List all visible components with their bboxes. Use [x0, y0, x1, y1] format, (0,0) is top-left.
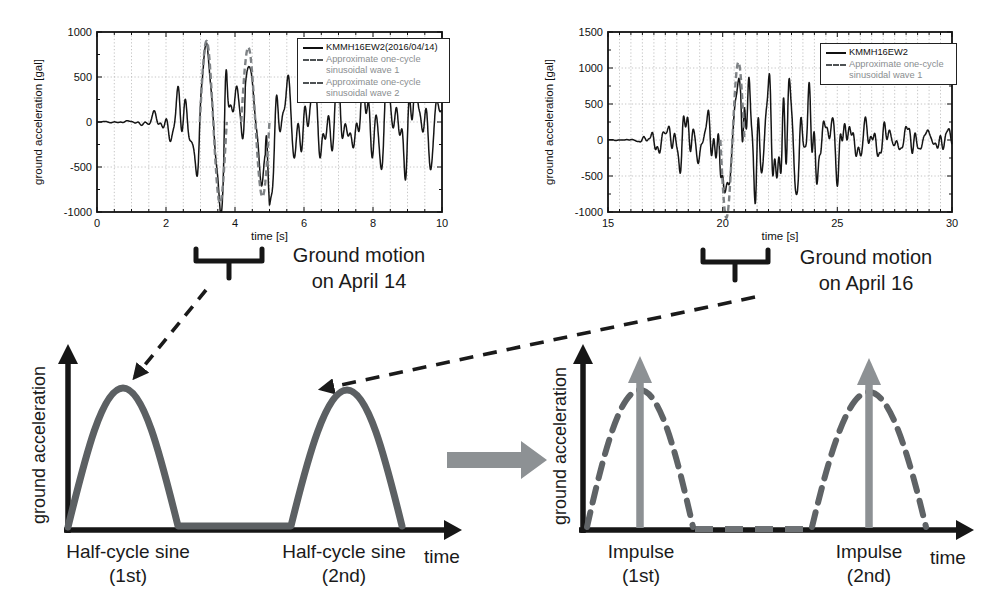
x-tick-label: 6: [301, 217, 307, 229]
y-tick-label: -1000: [64, 206, 92, 218]
half-cycle-sine-1st-label: Half-cycle sine (1st): [66, 540, 190, 589]
legend-item: Approximate one-cycle sinusoidal wave 1: [826, 59, 952, 82]
legend-label: Approximate one-cycle sinusoidal wave 1: [326, 54, 445, 77]
acceleration-axis-arrowhead-icon: [573, 344, 593, 364]
time-axis-arrowhead-icon: [956, 520, 974, 540]
x-tick-label: 0: [94, 217, 100, 229]
legend-april16: KMMH16EW2Approximate one-cycle sinusoida…: [820, 43, 957, 85]
dashed-line-sample-icon: [303, 59, 323, 61]
schematic-impulse: [573, 344, 974, 540]
x-tick-label: 15: [602, 217, 614, 229]
schematic-right-ylabel: ground acceleration: [550, 367, 571, 525]
y-tick-label: 0: [597, 134, 603, 146]
y-tick-label: -500: [581, 170, 603, 182]
y-tick-label: -1000: [575, 206, 603, 218]
legend-april14: KMMH16EW2(2016/04/14)Approximate one-cyc…: [297, 38, 450, 103]
impulse-1st-label: Impulse (1st): [608, 540, 675, 589]
impulse-arrowhead-1-icon: [628, 356, 652, 383]
transform-arrow-icon: [447, 441, 547, 479]
y-tick-label: 500: [74, 71, 92, 83]
legend-label: Approximate one-cycle sinusoidal wave 1: [849, 59, 952, 82]
solid-line-sample-icon: [303, 47, 323, 49]
y-tick-label: 1000: [68, 26, 92, 38]
x-axis-label: time [s]: [251, 230, 288, 242]
legend-label: KMMH16EW2: [849, 47, 908, 59]
half-cycle-sine-signal: [68, 388, 402, 527]
legend-item: KMMH16EW2: [826, 47, 952, 59]
y-tick-label: 1500: [579, 26, 603, 38]
x-tick-label: 10: [436, 217, 448, 229]
x-tick-label: 25: [831, 217, 843, 229]
x-axis-label: time [s]: [761, 230, 798, 242]
solid-line-sample-icon: [826, 52, 846, 54]
legend-label: Approximate one-cycle sinusoidal wave 2: [326, 77, 445, 100]
x-tick-label: 8: [370, 217, 376, 229]
x-tick-label: 30: [946, 217, 958, 229]
dashed-line-sample-icon: [303, 82, 323, 84]
time-label-left: time: [424, 545, 460, 569]
y-axis-label: ground acceleration [gal]: [32, 59, 44, 185]
x-tick-label: 20: [717, 217, 729, 229]
time-label-right: time: [930, 546, 966, 570]
brace-april14: [196, 249, 262, 278]
y-tick-label: -500: [70, 161, 92, 173]
legend-label: KMMH16EW2(2016/04/14): [326, 42, 438, 54]
figure: 024681010005000-500-1000time [s]ground a…: [0, 0, 1007, 615]
ground-motion-april16-label: Ground motion on April 16: [800, 245, 932, 296]
y-tick-label: 500: [585, 98, 603, 110]
dashed-line-sample-icon: [826, 64, 846, 66]
time-axis-arrowhead-icon: [444, 520, 462, 540]
dashed-arrow-april16-to-pulse2: [322, 297, 755, 389]
impulse-2nd-label: Impulse (2nd): [836, 540, 903, 589]
impulse-arrowhead-2-icon: [857, 358, 881, 385]
legend-item: Approximate one-cycle sinusoidal wave 1: [303, 54, 445, 77]
acceleration-axis-arrowhead-icon: [58, 344, 78, 364]
x-tick-label: 4: [232, 217, 238, 229]
y-axis-label: ground acceleration [gal]: [543, 59, 555, 185]
figure-scene: 024681010005000-500-1000time [s]ground a…: [0, 0, 1007, 615]
x-tick-label: 2: [163, 217, 169, 229]
schematic-left-ylabel: ground acceleration: [29, 366, 50, 524]
y-tick-label: 0: [86, 116, 92, 128]
ground-motion-april14-label: Ground motion on April 14: [293, 243, 425, 294]
legend-item: Approximate one-cycle sinusoidal wave 2: [303, 77, 445, 100]
half-cycle-sine-2nd-label: Half-cycle sine (2nd): [282, 540, 406, 589]
legend-item: KMMH16EW2(2016/04/14): [303, 42, 445, 54]
dashed-arrow-april14-to-pulse1: [135, 290, 206, 377]
y-tick-label: 1000: [579, 62, 603, 74]
brace-april16: [703, 250, 768, 280]
